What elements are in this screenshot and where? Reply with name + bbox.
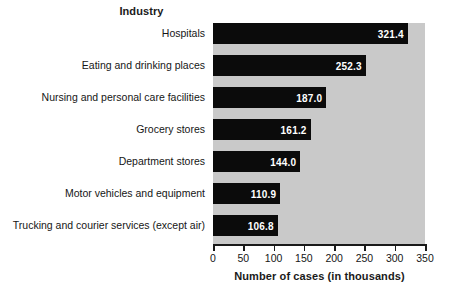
chart-figure: Industry Hospitals Eating and drinking p… <box>0 0 453 294</box>
bar-department-stores[interactable]: 144.0 <box>213 151 300 172</box>
x-axis-tick-label: 150 <box>295 252 313 264</box>
bar-value-label: 161.2 <box>281 124 307 135</box>
x-axis-tick-label: 300 <box>386 252 404 264</box>
category-label-eating-drinking: Eating and drinking places <box>82 55 205 76</box>
x-axis-title: Number of cases (in thousands) <box>213 270 426 282</box>
x-axis-tick <box>213 244 215 251</box>
bar-row: 252.3 <box>213 55 366 76</box>
x-axis-tick-label: 350 <box>416 252 434 264</box>
bar-row: 187.0 <box>213 87 326 108</box>
x-axis-tick-label: 250 <box>356 252 374 264</box>
bar-row: 161.2 <box>213 119 311 140</box>
bar-value-label: 110.9 <box>251 188 276 199</box>
x-axis-tick <box>243 244 245 251</box>
category-label-department-stores: Department stores <box>119 151 205 172</box>
x-axis-tick <box>425 244 427 251</box>
category-label-grocery-stores: Grocery stores <box>136 119 205 140</box>
bar-value-label: 321.4 <box>378 28 404 39</box>
bar-nursing-care[interactable]: 187.0 <box>213 87 326 108</box>
bar-grocery-stores[interactable]: 161.2 <box>213 119 311 140</box>
chart-title: Industry <box>0 5 283 17</box>
x-axis-tick-label: 100 <box>265 252 283 264</box>
x-axis-tick-label: 200 <box>325 252 343 264</box>
x-axis-tick <box>395 244 397 251</box>
category-label-nursing-care: Nursing and personal care facilities <box>42 87 205 108</box>
bar-row: 144.0 <box>213 151 300 172</box>
bar-row: 106.8 <box>213 215 278 236</box>
plot-area: 321.4 252.3 187.0 161.2 144.0 <box>213 23 425 244</box>
x-axis-tick <box>364 244 366 251</box>
bar-value-label: 144.0 <box>270 156 296 167</box>
category-label-trucking-courier: Trucking and courier services (except ai… <box>13 215 205 236</box>
bar-value-label: 252.3 <box>336 60 362 71</box>
bar-row: 110.9 <box>213 183 280 204</box>
bar-trucking-courier[interactable]: 106.8 <box>213 215 278 236</box>
x-axis-tick-label: 0 <box>210 252 216 264</box>
category-label-motor-vehicles: Motor vehicles and equipment <box>65 183 205 204</box>
category-axis-labels: Hospitals Eating and drinking places Nur… <box>0 23 209 244</box>
bar-motor-vehicles[interactable]: 110.9 <box>213 183 280 204</box>
bar-eating-drinking[interactable]: 252.3 <box>213 55 366 76</box>
bar-row: 321.4 <box>213 23 408 44</box>
x-axis-tick-label: 50 <box>237 252 249 264</box>
x-axis-tick <box>334 244 336 251</box>
x-axis-tick <box>304 244 306 251</box>
bar-value-label: 106.8 <box>248 220 274 231</box>
bars-layer: 321.4 252.3 187.0 161.2 144.0 <box>213 23 425 244</box>
category-label-hospitals: Hospitals <box>162 23 205 44</box>
bar-hospitals[interactable]: 321.4 <box>213 23 408 44</box>
x-axis-tick <box>274 244 276 251</box>
bar-value-label: 187.0 <box>296 92 322 103</box>
